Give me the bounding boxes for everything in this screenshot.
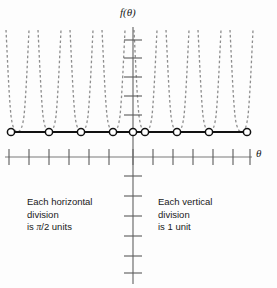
note-horizontal-line2: division (27, 209, 92, 222)
secant-function-figure: f(θ) θ Each horizontal division is π/2 u… (0, 0, 277, 288)
y-axis-label: f(θ) (120, 6, 136, 18)
open-circle-marker (77, 128, 84, 135)
note-horizontal-line3: is π/2 units (27, 221, 92, 234)
note-horizontal-line3-suffix: /2 units (41, 221, 72, 232)
y-axis (124, 27, 142, 284)
open-circle-marker (141, 128, 148, 135)
secant-branch (38, 30, 61, 132)
note-vertical-line3: is 1 unit (158, 221, 212, 234)
secant-branch (166, 30, 189, 132)
open-circle-marker (7, 128, 14, 135)
secant-branch (198, 30, 221, 132)
note-vertical-line2: division (158, 209, 212, 222)
secant-branch-center (102, 30, 125, 132)
note-horizontal-line1: Each horizontal (27, 196, 92, 209)
x-axis (5, 149, 252, 165)
secant-branch-center (134, 30, 157, 132)
open-circle-marker (109, 128, 116, 135)
plot-canvas (0, 0, 277, 288)
open-circle-marker (243, 128, 250, 135)
note-horizontal-line3-prefix: is (27, 221, 37, 232)
secant-branch (6, 30, 29, 132)
note-vertical-line1: Each vertical (158, 196, 212, 209)
note-horizontal-division: Each horizontal division is π/2 units (27, 196, 92, 234)
open-circle-marker (45, 128, 52, 135)
note-vertical-division: Each vertical division is 1 unit (158, 196, 212, 234)
reference-line-y1 (7, 128, 250, 135)
open-circle-marker (129, 128, 136, 135)
open-circle-marker (205, 128, 212, 135)
open-circle-marker (173, 128, 180, 135)
secant-curves (6, 30, 253, 132)
x-axis-label: θ (256, 147, 261, 159)
secant-branch (70, 30, 93, 132)
secant-branch (230, 30, 253, 132)
